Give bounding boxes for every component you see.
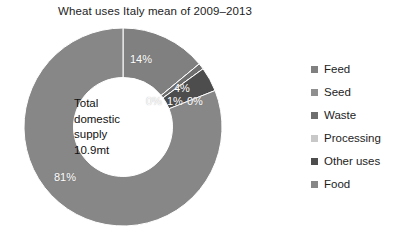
chart-title: Wheat uses Italy mean of 2009–2013 (0, 4, 310, 18)
donut-chart-svg (22, 26, 284, 231)
legend-item-label: Other uses (324, 155, 380, 168)
legend-item-food[interactable]: Food (311, 173, 397, 196)
legend-swatch-icon (311, 158, 318, 165)
chart-legend: FeedSeedWasteProcessingOther usesFood (311, 58, 397, 196)
legend-item-other-uses[interactable]: Other uses (311, 150, 397, 173)
legend-item-processing[interactable]: Processing (311, 127, 397, 150)
legend-item-label: Food (324, 178, 350, 191)
legend-swatch-icon (311, 112, 318, 119)
legend-item-label: Processing (324, 132, 381, 145)
legend-swatch-icon (311, 135, 318, 142)
legend-swatch-icon (311, 66, 318, 73)
legend-swatch-icon (311, 89, 318, 96)
donut-chart: Total domestic supply 10.9mt 14% 4% 0% 1… (22, 26, 284, 231)
legend-item-label: Waste (324, 109, 356, 122)
legend-item-seed[interactable]: Seed (311, 81, 397, 104)
legend-swatch-icon (311, 181, 318, 188)
legend-item-waste[interactable]: Waste (311, 104, 397, 127)
legend-item-label: Feed (324, 63, 350, 76)
donut-slices (24, 28, 222, 226)
legend-item-label: Seed (324, 86, 351, 99)
legend-item-feed[interactable]: Feed (311, 58, 397, 81)
